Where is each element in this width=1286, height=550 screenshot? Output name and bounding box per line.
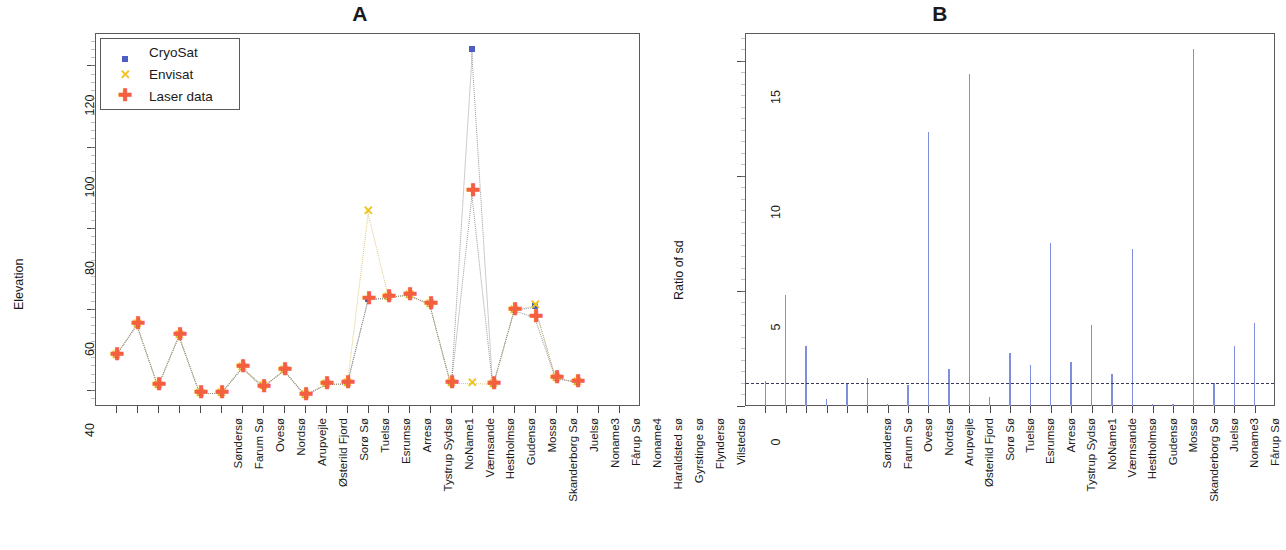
panel-a-y-minor-tick	[91, 49, 95, 50]
panel-b-x-tick-label: Nordsø	[943, 418, 955, 528]
panel-b-y-minor-tick	[741, 199, 745, 200]
panel-a-y-minor-tick	[91, 341, 95, 342]
panel-a-y-minor-tick	[91, 147, 95, 148]
panel-a-x-tick-label: Nordsø	[295, 418, 307, 528]
panel-a-y-minor-tick	[91, 57, 95, 58]
panel-b-x-tick-mark	[806, 406, 807, 413]
panel-a-marker-laser: ✚	[278, 361, 291, 378]
panel-b-x-tick-mark	[928, 406, 929, 413]
panel-a-marker-laser: ✚	[320, 375, 333, 392]
figure-root: A Elevation 406080100120 SøndersøFarum S…	[0, 0, 1286, 550]
panel-b-x-tick-label: Ovesø	[922, 418, 934, 528]
panel-a-y-minor-tick	[91, 122, 95, 123]
panel-a-y-minor-tick	[91, 333, 95, 334]
panel-a-x-tick-mark	[263, 406, 264, 413]
panel-a-y-minor-tick	[91, 82, 95, 83]
panel-a-y-minor-tick	[91, 325, 95, 326]
panel-b-title: B	[880, 2, 1000, 26]
panel-a-x-tick-mark	[514, 406, 515, 413]
panel-a-marker-laser: ✚	[110, 346, 123, 363]
panel-a-y-minor-tick	[91, 365, 95, 366]
panel-a-x-tick-label: Juelsø	[588, 418, 600, 528]
panel-a-y-minor-tick	[91, 228, 95, 229]
panel-a-x-tick-label: Gudensø	[525, 418, 537, 528]
panel-a-y-minor-tick	[91, 390, 95, 391]
legend-label-laser: Laser data	[149, 89, 213, 104]
panel-b-x-tick-mark	[765, 406, 766, 413]
legend-item-envisat: ✕ Envisat	[101, 64, 241, 86]
panel-b-bar	[1254, 323, 1255, 406]
panel-b-x-tick-mark	[908, 406, 909, 413]
panel-b-y-minor-tick	[741, 210, 745, 211]
panel-a-x-tick-label: Værnsande	[484, 418, 496, 528]
panel-a-y-tick-label: 40	[83, 410, 97, 450]
panel-a-y-minor-tick	[91, 74, 95, 75]
panel-b-bar	[846, 383, 847, 406]
panel-b-x-tick-label: NoName1	[1106, 418, 1118, 528]
panel-a-x-tick-label: Østerild Fjord	[337, 418, 349, 528]
panel-a-y-minor-tick	[91, 106, 95, 107]
panel-b-x-tick-mark	[1193, 406, 1194, 413]
panel-a-y-minor-tick	[91, 220, 95, 221]
panel-b-bar	[989, 397, 990, 406]
panel-b-y-minor-tick	[741, 72, 745, 73]
panel-a-marker-laser: ✚	[215, 384, 228, 401]
legend-x-icon: ✕	[115, 68, 135, 81]
panel-a-y-minor-tick	[91, 357, 95, 358]
panel-b-y-minor-tick	[741, 107, 745, 108]
panel-b-x-tick-mark	[786, 406, 787, 413]
panel-b-ratio-reference-line	[746, 383, 1274, 384]
panel-a-y-minor-tick	[91, 114, 95, 115]
panel-b-bar	[1152, 404, 1153, 406]
panel-a-x-tick-label: Ovesø	[274, 418, 286, 528]
panel-a-y-minor-tick	[91, 171, 95, 172]
panel-b-bar	[907, 385, 908, 406]
panel-a-x-tick-mark	[221, 406, 222, 413]
panel-a-y-minor-tick	[91, 309, 95, 310]
panel-b-bar	[1030, 365, 1031, 406]
panel-b-y-tick-label: 15	[769, 79, 783, 115]
panel-b-bar	[1050, 243, 1051, 406]
panel-b-x-tick-mark	[1132, 406, 1133, 413]
panel-b-bar	[969, 74, 970, 406]
panel-a-marker-laser: ✚	[299, 386, 312, 403]
panel-b-y-minor-tick	[741, 141, 745, 142]
panel-b-x-tick-mark	[1071, 406, 1072, 413]
panel-a-marker-laser: ✚	[445, 374, 458, 391]
panel-b-y-minor-tick	[741, 130, 745, 131]
panel-a-marker-cryosat	[469, 46, 475, 52]
panel-a-x-tick-mark	[200, 406, 201, 413]
panel-b-y-minor-tick	[741, 245, 745, 246]
panel-b-bar	[1213, 383, 1214, 406]
panel-b-x-tick-mark	[949, 406, 950, 413]
panel-a-x-tick-label: Mossø	[546, 418, 558, 528]
legend-plus-icon: ✚	[115, 87, 135, 104]
panel-b-y-minor-tick	[741, 95, 745, 96]
panel-b-y-tick-label: 5	[769, 309, 783, 345]
panel-a-x-tick-mark	[493, 406, 494, 413]
panel-b-bar	[805, 346, 806, 406]
panel-b-x-tick-label: Hestholmsø	[1146, 418, 1158, 528]
panel-a-y-minor-tick	[91, 195, 95, 196]
panel-a-x-tick-label: NoName1	[463, 418, 475, 528]
panel-b-x-tick-mark	[1010, 406, 1011, 413]
panel-a-y-minor-tick	[91, 130, 95, 131]
panel-a-y-minor-tick	[91, 41, 95, 42]
panel-b-y-minor-tick	[741, 383, 745, 384]
panel-a-y-minor-tick	[91, 187, 95, 188]
panel-a-y-minor-tick	[91, 301, 95, 302]
panel-b-x-tick-label: Juelsø	[1228, 418, 1240, 528]
panel-a-x-tick-mark	[535, 406, 536, 413]
panel-b-y-minor-tick	[741, 268, 745, 269]
panel-a-x-tick-mark	[451, 406, 452, 413]
panel-a-marker-laser: ✚	[341, 374, 354, 391]
panel-b-y-minor-tick	[741, 187, 745, 188]
panel-a-x-tick-label: Noname3	[609, 418, 621, 528]
panel-b-y-tick-mark	[737, 406, 745, 407]
panel-a-marker-laser: ✚	[362, 290, 375, 307]
panel-a-y-minor-tick	[91, 179, 95, 180]
panel-b-bar	[1172, 404, 1173, 406]
panel-a-marker-laser: ✚	[466, 182, 479, 199]
panel-a-y-minor-tick	[91, 349, 95, 350]
panel-b-x-tick-label: Arresø	[1065, 418, 1077, 528]
